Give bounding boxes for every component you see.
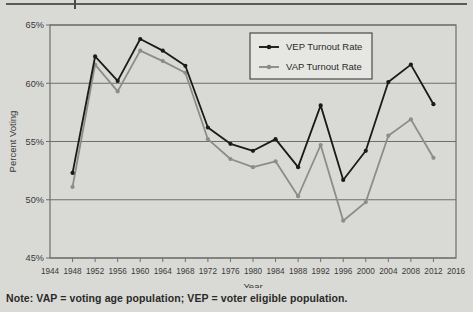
data-point xyxy=(341,219,345,223)
data-point xyxy=(93,54,97,58)
data-point xyxy=(206,125,210,129)
data-point xyxy=(296,194,300,198)
data-point xyxy=(364,200,368,204)
data-point xyxy=(409,117,413,121)
x-axis-tick-label: 2016 xyxy=(447,267,466,276)
y-axis-tick-label: 55% xyxy=(26,137,44,147)
legend-marker xyxy=(267,45,272,50)
x-axis-tick-label: 1980 xyxy=(244,267,263,276)
data-point xyxy=(431,102,435,106)
figure-container: 65%60%55%50%45%1944194819521956196019641… xyxy=(0,0,473,312)
x-axis-tick-label: 1968 xyxy=(176,267,195,276)
data-point xyxy=(296,165,300,169)
y-axis-tick-label: 60% xyxy=(26,79,44,89)
data-point xyxy=(273,159,277,163)
data-point xyxy=(386,80,390,84)
x-axis-tick-label: 1952 xyxy=(86,267,105,276)
data-point xyxy=(409,63,413,67)
y-axis-tick-label: 65% xyxy=(26,20,44,30)
x-axis-tick-label: 1972 xyxy=(199,267,218,276)
data-point xyxy=(116,79,120,83)
x-axis-tick-label: 1976 xyxy=(221,267,240,276)
x-axis-tick-label: 1984 xyxy=(266,267,285,276)
data-point xyxy=(161,59,165,63)
legend-label: VEP Turnout Rate xyxy=(286,41,362,52)
y-axis-tick-label: 50% xyxy=(26,195,44,205)
y-axis-tick-label: 45% xyxy=(26,253,44,263)
x-axis-tick-label: 1948 xyxy=(63,267,82,276)
data-point xyxy=(228,142,232,146)
x-axis-tick-label: 1996 xyxy=(334,267,353,276)
figure-note: Note: VAP = voting age population; VEP =… xyxy=(6,292,348,304)
data-point xyxy=(228,157,232,161)
data-point xyxy=(273,137,277,141)
data-point xyxy=(319,103,323,107)
data-point xyxy=(138,37,142,41)
legend-label: VAP Turnout Rate xyxy=(286,61,362,72)
x-axis-tick-label: 2000 xyxy=(357,267,376,276)
x-axis-title: Year xyxy=(243,281,262,288)
data-point xyxy=(386,134,390,138)
data-point xyxy=(70,185,74,189)
data-point xyxy=(251,165,255,169)
y-axis-title: Percent Voting xyxy=(7,111,18,173)
data-point xyxy=(431,156,435,160)
x-axis-tick-label: 2008 xyxy=(402,267,421,276)
data-point xyxy=(161,49,165,53)
data-point xyxy=(116,89,120,93)
x-axis-tick-label: 1944 xyxy=(41,267,60,276)
data-point xyxy=(341,178,345,182)
data-point xyxy=(251,149,255,153)
x-axis-tick-label: 1956 xyxy=(109,267,128,276)
x-axis-tick-label: 2012 xyxy=(424,267,443,276)
chart-area: 65%60%55%50%45%1944194819521956196019641… xyxy=(0,8,473,288)
x-axis-tick-label: 1992 xyxy=(312,267,331,276)
data-point xyxy=(319,143,323,147)
turnout-line-chart: 65%60%55%50%45%1944194819521956196019641… xyxy=(0,8,473,288)
x-axis-tick-label: 1960 xyxy=(131,267,150,276)
x-axis-tick-label: 2004 xyxy=(379,267,398,276)
data-point xyxy=(70,171,74,175)
data-point xyxy=(206,137,210,141)
x-axis-tick-label: 1988 xyxy=(289,267,308,276)
data-point xyxy=(183,64,187,68)
legend-marker xyxy=(267,65,272,70)
data-point xyxy=(364,149,368,153)
data-point xyxy=(138,49,142,53)
x-axis-tick-label: 1964 xyxy=(154,267,173,276)
